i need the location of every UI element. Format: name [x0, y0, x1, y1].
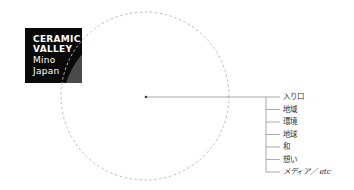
label-feelings: 想い: [283, 155, 297, 164]
label-media-etc: メディア／ etc: [283, 167, 331, 176]
label-entrance: 入り口: [283, 92, 304, 101]
dashed-circle: [61, 12, 229, 180]
label-environment: 環境: [283, 117, 297, 126]
label-harmony: 和: [283, 142, 290, 151]
bracket-ticks: [266, 97, 280, 172]
label-region: 地域: [283, 105, 297, 114]
label-earth: 地球: [283, 130, 297, 139]
